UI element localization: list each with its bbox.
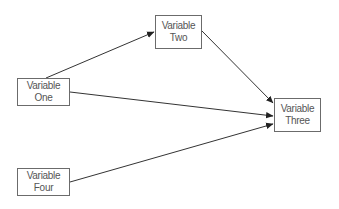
edge-two-to-three: [202, 31, 273, 103]
node-label-line1: Variable: [162, 20, 196, 32]
node-variable-three: Variable Three: [274, 98, 321, 132]
node-label-line2: Two: [170, 32, 187, 44]
edge-one-to-three: [70, 92, 273, 116]
node-label-line2: Three: [285, 115, 310, 127]
node-label-line1: Variable: [281, 103, 315, 115]
node-label-line1: Variable: [27, 80, 61, 92]
edge-four-to-three: [70, 124, 273, 182]
node-variable-one: Variable One: [17, 78, 70, 106]
edge-one-to-two: [46, 32, 154, 78]
node-label-line2: Four: [34, 182, 53, 194]
node-variable-four: Variable Four: [17, 168, 70, 196]
node-variable-two: Variable Two: [155, 15, 202, 49]
node-label-line2: One: [34, 92, 52, 104]
path-diagram: Variable One Variable Two Variable Three…: [0, 0, 339, 209]
node-label-line1: Variable: [27, 170, 61, 182]
